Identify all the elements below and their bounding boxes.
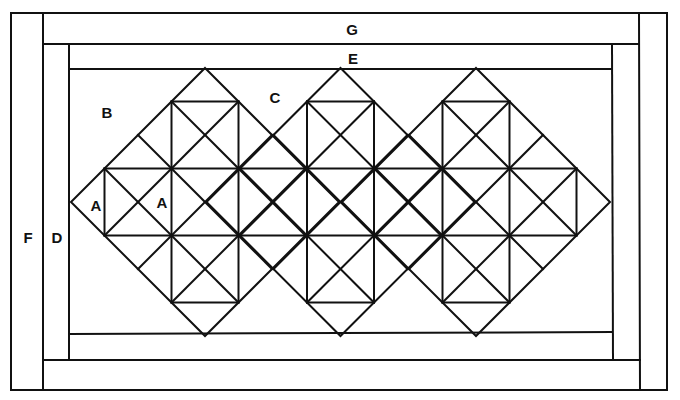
border-right-strip-edge	[639, 13, 640, 390]
label-c: C	[270, 89, 281, 106]
inner-field-bottom-edge	[69, 332, 612, 334]
label-a-right: A	[157, 194, 168, 211]
label-d: D	[52, 229, 63, 246]
label-a-left: A	[91, 197, 102, 214]
label-f: F	[23, 229, 32, 246]
border-e-right-edge	[612, 44, 613, 360]
quilt-diagram: G E F D B C A A	[0, 0, 680, 400]
label-b: B	[102, 104, 113, 121]
label-e: E	[348, 50, 358, 67]
diamond-blocks	[71, 68, 610, 336]
label-g: G	[346, 21, 358, 38]
